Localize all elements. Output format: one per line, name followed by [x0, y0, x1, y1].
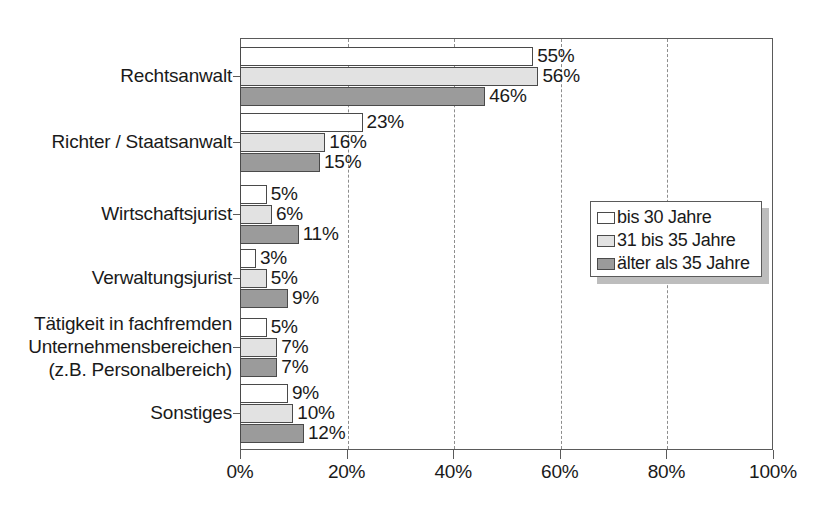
category-label: Verwaltungsjurist	[2, 266, 232, 289]
legend-label: 31 bis 35 Jahre	[617, 230, 736, 251]
legend-label: älter als 35 Jahre	[617, 253, 750, 274]
bar	[240, 404, 293, 423]
bar-value-label: 16%	[329, 131, 366, 153]
category-label: Rechtsanwalt	[2, 64, 232, 87]
bar-row: 16%	[240, 133, 773, 152]
bar	[240, 47, 533, 66]
x-axis-tick-label: 60%	[541, 461, 578, 483]
x-axis-tick-label: 100%	[749, 461, 797, 483]
x-axis-tick	[773, 450, 774, 459]
bar-value-label: 7%	[281, 336, 308, 358]
bar-value-label: 5%	[271, 267, 298, 289]
category-label: Tätigkeit in fachfremden Unternehmensber…	[2, 312, 232, 381]
light-gray-swatch-icon	[597, 235, 615, 247]
bar	[240, 153, 320, 172]
category-tick	[233, 214, 240, 215]
x-axis-tick-label: 0%	[226, 461, 253, 483]
category-label: Wirtschaftsjurist	[2, 202, 232, 225]
x-axis-tick	[453, 450, 454, 459]
x-axis-tick-label: 20%	[328, 461, 365, 483]
bar	[240, 269, 267, 288]
x-axis-tick-label: 40%	[434, 461, 471, 483]
bar	[240, 384, 288, 403]
bar	[240, 225, 299, 244]
bar	[240, 185, 267, 204]
bar	[240, 133, 325, 152]
category-label: Sonstiges	[2, 401, 232, 424]
category-tick	[233, 142, 240, 143]
bar	[240, 113, 363, 132]
bar	[240, 87, 485, 106]
x-axis-tick	[560, 450, 561, 459]
dark-gray-swatch-icon	[597, 258, 615, 270]
bar	[240, 424, 304, 443]
category-label: Richter / Staatsanwalt	[2, 130, 232, 153]
category-tick	[233, 76, 240, 77]
legend-item: älter als 35 Jahre	[597, 252, 757, 275]
bar-value-label: 46%	[489, 85, 526, 107]
bar	[240, 249, 256, 268]
category-tick	[233, 278, 240, 279]
bar-row: 7%	[240, 358, 773, 377]
x-axis-tick-label: 80%	[648, 461, 685, 483]
bar-row: 15%	[240, 153, 773, 172]
legend-item: bis 30 Jahre	[597, 206, 757, 229]
bar-row: 12%	[240, 424, 773, 443]
category-tick	[233, 347, 240, 348]
bar-row: 5%	[240, 318, 773, 337]
bar	[240, 358, 277, 377]
bar-row: 7%	[240, 338, 773, 357]
bar-row: 9%	[240, 384, 773, 403]
bar-value-label: 5%	[271, 183, 298, 205]
bar-row: 55%	[240, 47, 773, 66]
bar-value-label: 11%	[303, 223, 339, 245]
bar	[240, 67, 538, 86]
bar	[240, 289, 288, 308]
x-axis-tick	[240, 450, 241, 459]
bar-row: 56%	[240, 67, 773, 86]
bar-value-label: 12%	[308, 422, 345, 444]
bar	[240, 338, 277, 357]
bar-row: 10%	[240, 404, 773, 423]
bar-value-label: 23%	[367, 111, 404, 133]
legend: bis 30 Jahre 31 bis 35 Jahre älter als 3…	[590, 201, 762, 277]
bar-value-label: 9%	[292, 382, 319, 404]
legend-label: bis 30 Jahre	[617, 207, 711, 228]
bar-row: 9%	[240, 289, 773, 308]
category-tick	[233, 413, 240, 414]
bar-value-label: 15%	[324, 151, 361, 173]
bar-chart: 55%56%46%23%16%15%5%6%11%3%5%9%5%7%7%9%1…	[0, 0, 837, 505]
bar-value-label: 55%	[537, 45, 574, 67]
bar-value-label: 3%	[260, 247, 287, 269]
bar-value-label: 7%	[281, 356, 308, 378]
x-axis-tick	[347, 450, 348, 459]
bar-value-label: 56%	[542, 65, 579, 87]
bar-value-label: 10%	[297, 402, 334, 424]
legend-item: 31 bis 35 Jahre	[597, 229, 757, 252]
bar-value-label: 6%	[276, 203, 303, 225]
bar	[240, 318, 267, 337]
bar-value-label: 5%	[271, 316, 298, 338]
bar-value-label: 9%	[292, 287, 319, 309]
bar	[240, 205, 272, 224]
white-swatch-icon	[597, 212, 615, 224]
bar-row: 46%	[240, 87, 773, 106]
bar-row: 23%	[240, 113, 773, 132]
x-axis-tick	[666, 450, 667, 459]
